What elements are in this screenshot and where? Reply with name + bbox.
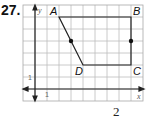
coordinate-graph: y x 1 1 A B C D	[0, 0, 152, 119]
vertex-label-c: C	[133, 65, 141, 77]
vertex-label-d: D	[75, 65, 83, 77]
y-axis-label: y	[37, 6, 42, 15]
midpoint-ad	[69, 39, 73, 43]
vertex-label-b: B	[133, 5, 140, 17]
x-axis-label: x	[136, 92, 141, 101]
x-tick-label: 1	[45, 91, 49, 98]
midpoint-bc	[129, 39, 133, 43]
vertex-label-a: A	[49, 5, 57, 17]
page-footer-text: 2	[113, 104, 120, 119]
y-tick-label: 1	[28, 74, 32, 81]
grid	[23, 5, 143, 101]
x-axis	[23, 87, 144, 91]
